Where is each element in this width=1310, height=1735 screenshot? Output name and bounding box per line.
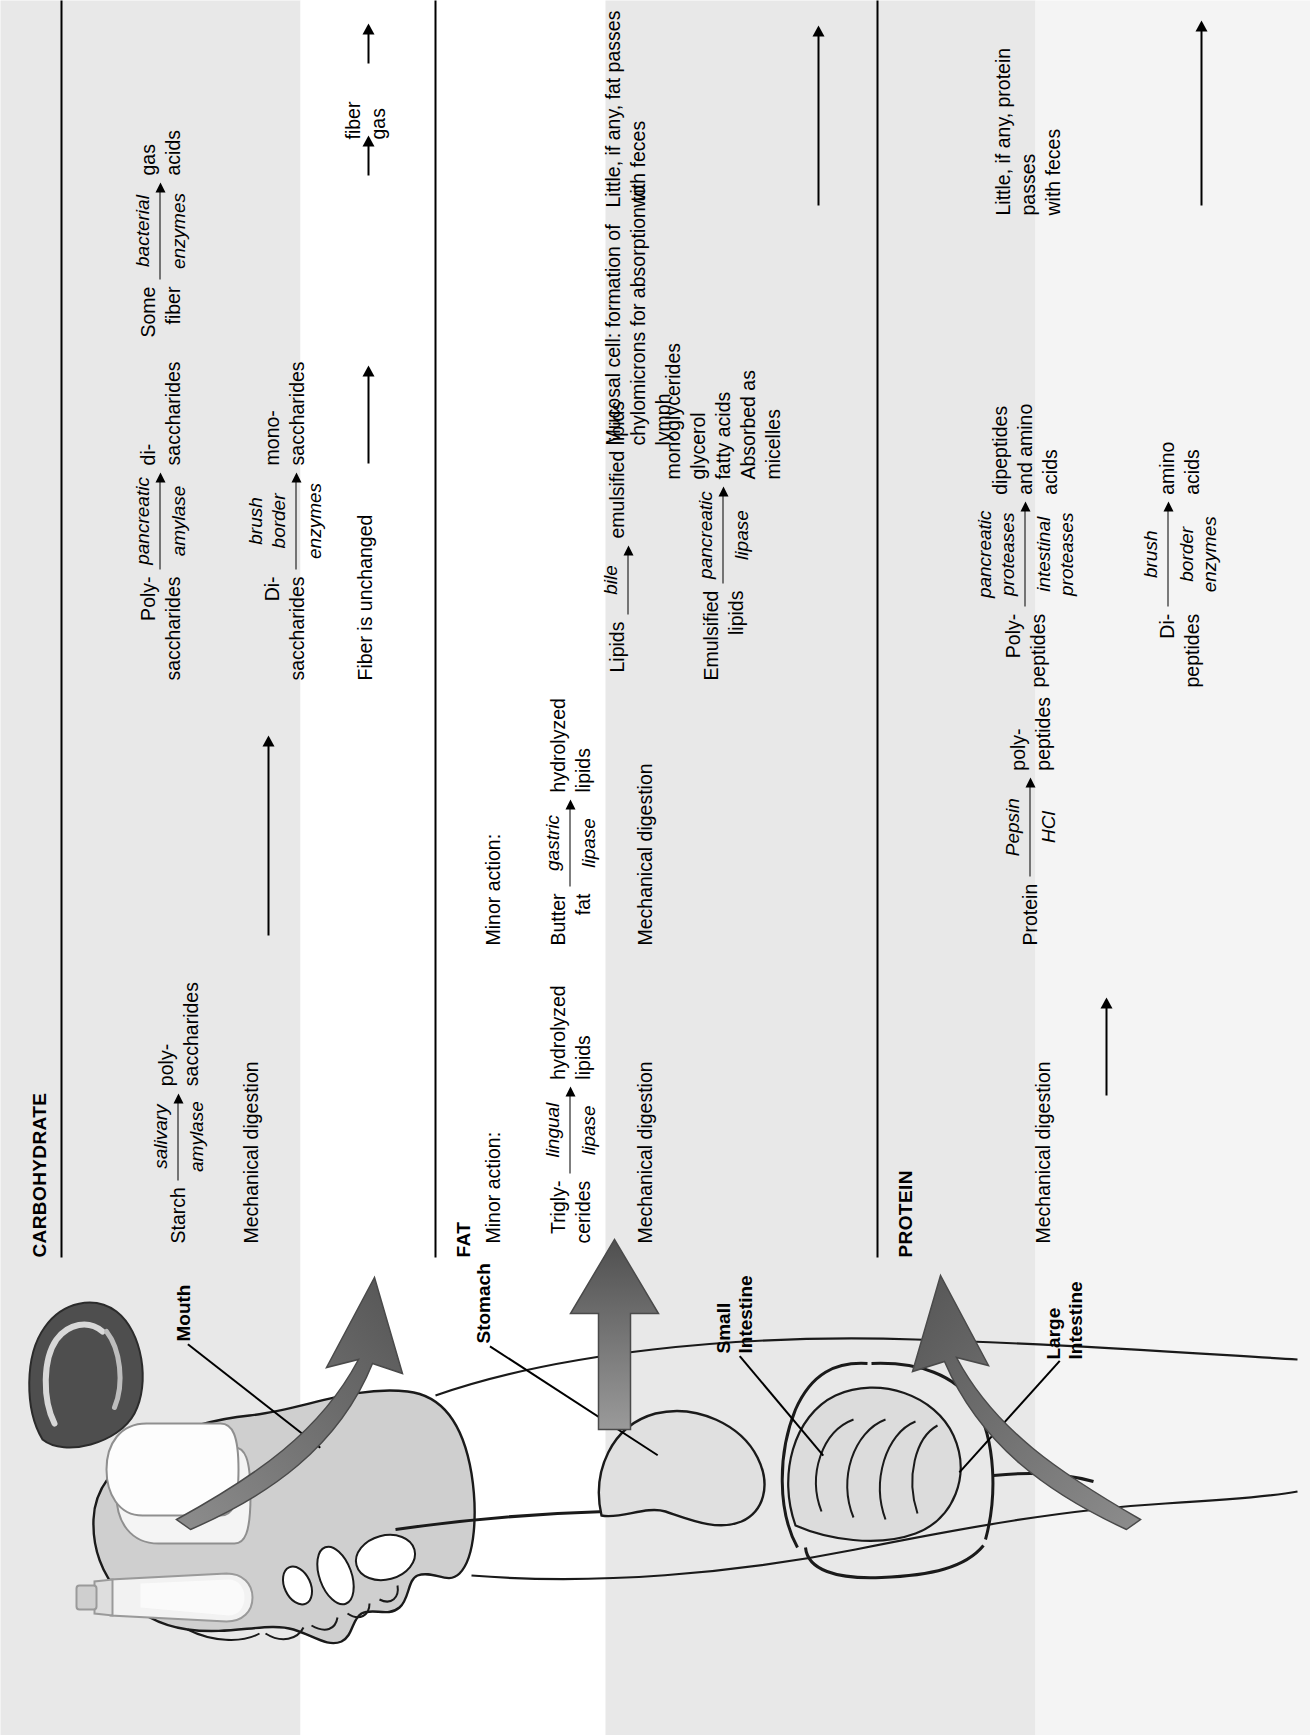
food-to-carbohydrate-arrow	[160, 1235, 420, 1535]
fat-li-exit-arrow	[812, 25, 824, 205]
carb-si-substrate-2: Di- saccharides	[259, 576, 309, 680]
arrow-shaft	[621, 545, 634, 614]
carb-flow-arrow	[262, 735, 274, 935]
carb-li-exit-arrow-2	[362, 23, 374, 63]
carb-si-enzyme-below-1: amylase	[166, 485, 189, 556]
carb-si-enzyme-arrow-1: pancreatic amylase	[130, 472, 189, 569]
carb-si-product-1: di- saccharides	[135, 361, 185, 465]
protein-mouth-note: Mechanical digestion	[1030, 1061, 1055, 1243]
fat-si-substrate-2: Emulsified lipids	[698, 590, 748, 680]
fat-mouth-minor-action: Minor action:	[480, 1131, 505, 1243]
food-to-fat-arrow	[560, 1235, 670, 1435]
fat-stomach-product: hydrolyzed lipids	[545, 698, 595, 792]
arrow-shaft	[563, 1086, 576, 1173]
carb-mouth-enzyme-arrow: salivary amylase	[148, 1093, 207, 1180]
arrow-shaft	[1023, 777, 1036, 876]
carb-li-passthrough: fiber gas	[340, 101, 390, 139]
protein-si-enzyme-arrow-2: brush border enzymes	[1138, 501, 1220, 606]
fat-stomach-enzyme-above: gastric	[540, 814, 563, 870]
carb-si-product-2: mono- saccharides	[259, 361, 309, 465]
protein-stomach-reaction: Protein Pepsin HCl poly- peptides	[1000, 696, 1059, 945]
rule-carb-fat	[434, 0, 436, 1257]
protein-si-reaction-1: Poly- peptides pancreatic proteases inte…	[972, 403, 1077, 687]
arrow-shaft	[153, 182, 166, 279]
arrow-shaft	[153, 472, 166, 569]
figure-page: CARBOHYDRATE FAT PROTEIN poly-saccharide…	[0, 0, 1310, 1735]
fat-mouth-reaction: Trigly- cerides lingual lipase hydrolyze…	[540, 985, 599, 1243]
carb-li-substrate: Some fiber	[135, 286, 185, 337]
fat-mouth-product: hydrolyzed lipids	[545, 985, 595, 1079]
protein-stomach-substrate: Protein	[1017, 883, 1042, 945]
carb-si-enzyme-below-2: enzymes	[302, 482, 325, 558]
rule-fat-protein	[876, 0, 878, 1257]
carb-si-enzyme-arrow-2: brush border enzymes	[243, 472, 325, 569]
carb-si-substrate-1: Poly- saccharides	[135, 576, 185, 680]
rotated-stage: CARBOHYDRATE FAT PROTEIN poly-saccharide…	[0, 0, 1310, 1735]
carb-li-enzyme-arrow: bacterial enzymes	[130, 182, 189, 279]
fat-si-reaction-2: Emulsified lipids pancreatic lipase mono…	[660, 342, 785, 680]
fat-si-enzyme-arrow-2: pancreatic lipase	[693, 486, 752, 583]
protein-si-enzyme-below-2: border enzymes	[1174, 516, 1220, 592]
protein-si-enzyme-above-2: brush	[1138, 530, 1161, 578]
carb-li-exit-arrow-1	[362, 135, 374, 175]
heading-fat: FAT	[452, 1221, 474, 1257]
carb-mouth-product: poly- saccharides	[153, 982, 203, 1086]
fat-mouth-enzyme-above: lingual	[540, 1102, 563, 1157]
protein-stomach-product: poly- peptides	[1005, 696, 1055, 770]
protein-li-note: Little, if any, protein passes with fece…	[990, 0, 1065, 215]
milk-glass-icon	[76, 1573, 252, 1621]
fat-stomach-enzyme-below: lipase	[576, 818, 599, 868]
meat-icon	[29, 1302, 142, 1447]
fat-mouth-substrate: Trigly- cerides	[545, 1180, 595, 1243]
fat-si-substrate-1: Lipids	[604, 621, 629, 672]
protein-si-substrate-2: Di- peptides	[1154, 613, 1204, 687]
carb-si-fiber-note: Fiber is unchanged	[352, 514, 377, 680]
carb-si-reaction-2: Di- saccharides brush border enzymes mon…	[243, 361, 325, 680]
fat-si-enzyme-above-2: pancreatic	[693, 491, 716, 579]
carb-li-reaction: Some fiber bacterial enzymes gas acids	[130, 130, 189, 337]
fat-mouth-enzyme-below: lipase	[576, 1105, 599, 1155]
protein-li-exit-arrow	[1195, 20, 1207, 205]
carb-si-enzyme-above-2: brush border	[243, 493, 289, 548]
fat-stomach-enzyme-arrow: gastric lipase	[540, 799, 599, 886]
carb-li-enzyme-below: enzymes	[166, 193, 189, 269]
arrow-shaft	[563, 799, 576, 886]
carb-mouth-enzyme-above: salivary	[148, 1104, 171, 1168]
fat-si-enzyme-above-1: bile	[598, 565, 621, 595]
chart-top-rule	[60, 0, 62, 1257]
fat-si-enzyme-arrow-1: bile	[598, 545, 634, 614]
arrow-shaft	[1161, 501, 1174, 606]
protein-si-enzyme-arrow-1: pancreatic proteases intestinal protease…	[972, 501, 1077, 606]
fat-si-enzyme-below-2: lipase	[729, 510, 752, 560]
carb-mouth-reaction: Starch salivary amylase poly- saccharide…	[148, 982, 207, 1243]
protein-stomach-enzyme-above: Pepsin	[1000, 798, 1023, 856]
organ-label-small-intestine: Small Intestine	[712, 1275, 756, 1353]
fat-li-note: Little, if any, fat passes with feces	[600, 10, 650, 207]
heading-carbohydrate: CARBOHYDRATE	[28, 1092, 50, 1257]
fat-si-product-2: monoglycerides glycerol fatty acids Abso…	[660, 342, 785, 479]
fat-stomach-reaction: Butter fat gastric lipase hydrolyzed lip…	[540, 698, 599, 945]
fat-stomach-note: Mechanical digestion	[632, 763, 657, 945]
protein-si-reaction-2: Di- peptides brush border enzymes amino …	[1138, 441, 1220, 687]
protein-stomach-enzyme-arrow: Pepsin HCl	[1000, 777, 1059, 876]
digestion-chart: CARBOHYDRATE FAT PROTEIN poly-saccharide…	[0, 0, 1310, 1735]
organ-label-stomach: Stomach	[472, 1263, 494, 1343]
carb-li-enzyme-above: bacterial	[130, 195, 153, 267]
arrow-shaft	[171, 1093, 184, 1180]
carb-si-enzyme-above-1: pancreatic	[130, 477, 153, 565]
arrow-shaft	[1018, 501, 1031, 606]
fat-mouth-enzyme-arrow: lingual lipase	[540, 1086, 599, 1173]
fat-si-mucosal-note: Mucosal cell: formation of chylomicrons …	[600, 185, 675, 445]
protein-si-enzyme-above-1: pancreatic proteases	[972, 510, 1018, 598]
carb-si-reaction-1: Poly- saccharides pancreatic amylase di-…	[130, 361, 189, 680]
fat-stomach-minor-action: Minor action:	[480, 833, 505, 945]
protein-si-enzyme-below-1: intestinal proteases	[1031, 512, 1077, 595]
carb-mouth-note: Mechanical digestion	[238, 1061, 263, 1243]
carb-li-product: gas acids	[135, 130, 185, 176]
fat-mouth-note: Mechanical digestion	[632, 1061, 657, 1243]
protein-si-substrate-1: Poly- peptides	[1000, 613, 1050, 687]
fat-stomach-substrate: Butter fat	[545, 893, 595, 945]
carb-si-to-li-arrow	[362, 365, 374, 463]
arrow-shaft	[289, 472, 302, 569]
protein-mouth-flow-arrow	[1100, 997, 1112, 1095]
